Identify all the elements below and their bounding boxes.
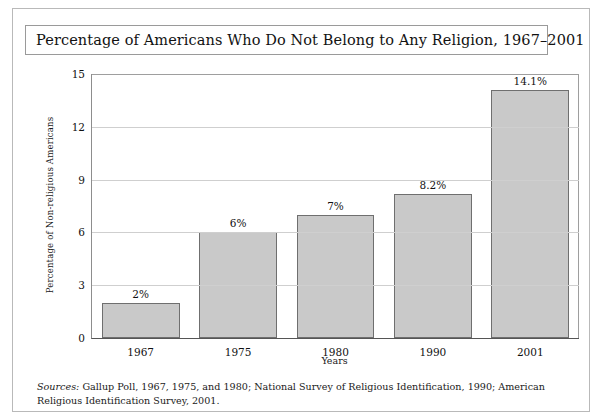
x-axis-title: Years [91, 355, 578, 366]
source-text: Gallup Poll, 1967, 1975, and 1980; Natio… [37, 381, 545, 406]
y-axis-title-label: Percentage of Non-religious Americans [45, 117, 55, 294]
source-label: Sources: [37, 381, 79, 392]
y-axis-tick-label: 0 [78, 332, 85, 344]
gridline [92, 180, 579, 181]
y-axis-tick-label: 9 [78, 174, 85, 186]
bar-value-label: 7% [287, 200, 384, 212]
bar-value-label: 2% [92, 288, 189, 300]
plot-wrapper: Percentage of Non-religious Americans 03… [25, 64, 578, 364]
plot-area: 2%19676%19757%19808.2%199014.1%2001 [91, 74, 579, 339]
bar-group: 7%1980 [287, 74, 384, 338]
y-axis-title: Percentage of Non-religious Americans [41, 64, 59, 346]
figure-frame: Percentage of Americans Who Do Not Belon… [12, 8, 590, 412]
y-axis-tick-label: 6 [78, 226, 85, 238]
bars-layer: 2%19676%19757%19808.2%199014.1%2001 [92, 74, 579, 338]
bar-value-label: 14.1% [482, 75, 579, 87]
bar-value-label: 6% [189, 217, 286, 229]
y-axis-tick-labels: 03691215 [59, 74, 89, 338]
source-note: Sources: Gallup Poll, 1967, 1975, and 19… [37, 380, 577, 408]
gridline [92, 285, 579, 286]
bar[interactable] [102, 303, 180, 338]
page-title: Percentage of Americans Who Do Not Belon… [36, 32, 585, 48]
bar[interactable] [394, 194, 472, 338]
gridline [92, 127, 579, 128]
y-axis-tick-label: 3 [78, 279, 85, 291]
bar-group: 6%1975 [189, 74, 286, 338]
bar-group: 2%1967 [92, 74, 189, 338]
bar-group: 14.1%2001 [482, 74, 579, 338]
y-axis-tick-label: 15 [72, 68, 85, 80]
gridline [92, 232, 579, 233]
bar-group: 8.2%1990 [384, 74, 481, 338]
y-axis-tick-label: 12 [72, 121, 85, 133]
chart-title-box: Percentage of Americans Who Do Not Belon… [25, 25, 548, 55]
